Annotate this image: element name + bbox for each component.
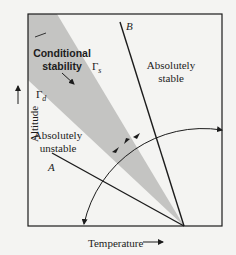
conditional-stability-label: Conditional stability	[33, 48, 91, 71]
absolutely-unstable-label: Absolutely unstable	[33, 130, 83, 154]
arc-tick-arrow-3	[133, 133, 140, 139]
conditional-stability-band	[28, 14, 184, 226]
y-axis-label: Altitude	[28, 94, 40, 154]
absolutely-stable-label: Absolutely stable	[141, 60, 201, 84]
stable-label-line1: Absolutely	[141, 60, 201, 71]
gamma-d-subscript: d	[42, 94, 46, 103]
x-axis-label-text: Temperature	[88, 237, 143, 249]
conditional-label-line2: stability	[33, 61, 91, 72]
y-axis-label-text: Altitude	[28, 106, 40, 142]
gamma-s-label: Γs	[92, 61, 101, 75]
line-a-label: A	[48, 162, 55, 173]
x-axis-label: Temperature	[88, 237, 143, 249]
stable-label-line2: stable	[141, 73, 201, 84]
conditional-label-line1: Conditional	[33, 48, 91, 59]
line-b-label: B	[126, 21, 133, 32]
unstable-label-line2: unstable	[33, 143, 83, 154]
gamma-s-subscript: s	[98, 66, 101, 75]
unstable-label-line1: Absolutely	[33, 130, 83, 141]
